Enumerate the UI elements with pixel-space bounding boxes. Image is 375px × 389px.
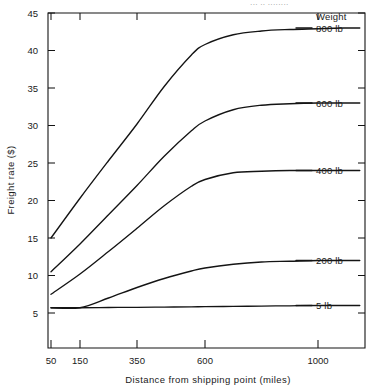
freight-rate-chart-figure: ··· ·· ········ 501503506001000 51015202… xyxy=(0,0,375,389)
y-tick-label: 30 xyxy=(27,120,38,131)
y-tick-label: 5 xyxy=(33,308,38,319)
curve-600-lb xyxy=(51,103,360,272)
x-tick-label: 600 xyxy=(197,355,213,366)
x-axis-title: Distance from shipping point (miles) xyxy=(125,374,290,385)
curve-200-lb xyxy=(51,260,360,308)
series-label-200-lb: 200 lb xyxy=(316,255,343,266)
y-tick-label: 15 xyxy=(27,233,38,244)
curve-800-lb xyxy=(51,28,360,238)
legend-title: Weight xyxy=(316,11,347,22)
curve-400-lb xyxy=(51,170,360,294)
chart-canvas: 501503506001000 51015202530354045 800 lb… xyxy=(0,0,375,389)
y-tick-label: 45 xyxy=(27,8,38,19)
axes xyxy=(48,13,365,348)
cropped-header-text: ··· ·· ········ xyxy=(250,0,365,5)
series-leader-lines xyxy=(296,28,312,306)
y-axis-tick-labels: 51015202530354045 xyxy=(27,8,38,319)
y-tick-label: 25 xyxy=(27,158,38,169)
x-tick-label: 50 xyxy=(46,355,57,366)
y-tick-label: 20 xyxy=(27,195,38,206)
y-tick-label: 40 xyxy=(27,45,38,56)
series-label-800-lb: 800 lb xyxy=(316,23,343,34)
series-label-5-lb: 5 lb xyxy=(316,300,332,311)
x-axis-tick-labels: 501503506001000 xyxy=(46,355,329,366)
y-axis-title: Freight rate ($) xyxy=(5,145,16,214)
data-curves xyxy=(51,28,360,309)
x-tick-label: 150 xyxy=(72,355,88,366)
x-tick-label: 1000 xyxy=(307,355,328,366)
x-tick-label: 350 xyxy=(129,355,145,366)
series-labels: 800 lb600 lb400 lb200 lb5 lb xyxy=(316,23,343,312)
y-tick-label: 10 xyxy=(27,270,38,281)
series-label-600-lb: 600 lb xyxy=(316,98,343,109)
series-label-400-lb: 400 lb xyxy=(316,165,343,176)
y-tick-label: 35 xyxy=(27,83,38,94)
curve-5-lb xyxy=(51,305,360,307)
